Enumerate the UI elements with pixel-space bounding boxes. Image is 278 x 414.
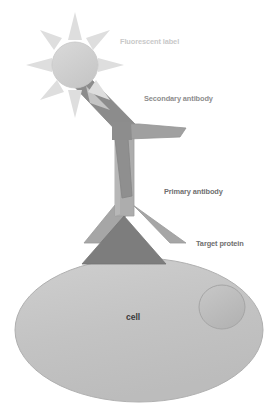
diagram-canvas: Fluorescent label Secondary antibody Pri… xyxy=(0,0,278,414)
ray-nw xyxy=(40,30,62,50)
fluorophore-circle xyxy=(52,42,98,88)
label-target-protein: Target protein xyxy=(196,239,244,248)
label-fluorescent-label: Fluorescent label xyxy=(120,37,179,46)
ray-e xyxy=(98,58,124,72)
label-cell: cell xyxy=(126,312,140,322)
ray-w xyxy=(26,58,52,72)
cell-membrane xyxy=(15,258,263,402)
cell-nucleus xyxy=(199,285,245,329)
ray-s xyxy=(68,90,82,118)
secondary-antibody-right-arm xyxy=(124,124,186,139)
ray-n xyxy=(68,12,82,40)
label-secondary-antibody: Secondary antibody xyxy=(144,94,214,103)
secondary-antibody-hinge xyxy=(112,122,132,140)
cell-group xyxy=(15,258,263,402)
label-primary-antibody: Primary antibody xyxy=(164,187,224,196)
